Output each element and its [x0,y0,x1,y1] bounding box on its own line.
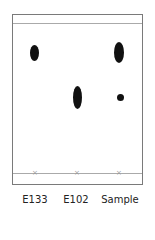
baseline-marker-sample: × [115,170,123,177]
spot-sample-lower [117,94,124,101]
spot-e133 [30,45,39,61]
lane-label-e133: E133 [15,194,55,205]
solvent-front-line [13,23,142,24]
lane-label-e102: E102 [56,194,96,205]
baseline-marker-e133: × [31,170,39,177]
baseline-marker-e102: × [73,170,81,177]
spot-sample-upper [114,42,124,63]
lane-label-sample: Sample [100,194,140,205]
spot-e102 [73,86,82,109]
